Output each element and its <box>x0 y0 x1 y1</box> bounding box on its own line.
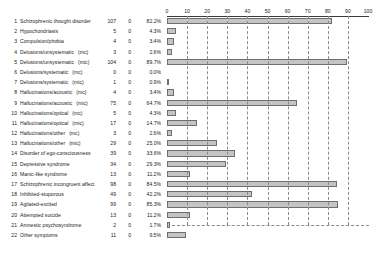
bar <box>167 191 252 197</box>
symptom-label: Amnestic psychosyndrome <box>20 220 81 230</box>
table-row: 7Delusions/systematic(mic)100.9% <box>0 77 166 87</box>
row-index: 20 <box>6 210 17 220</box>
symptom-label: Agitated-excited <box>20 199 57 209</box>
symptom-label: Hallucinations/optical(mc) <box>20 108 83 118</box>
bar-row <box>167 230 368 240</box>
x-tick-label-50: 50 <box>265 8 271 14</box>
bar <box>167 161 226 167</box>
symptom-label-text: Delusions/systematic <box>20 79 68 85</box>
count-value: 3 <box>100 47 116 57</box>
missing-value: 0 <box>122 36 131 46</box>
count-value: 75 <box>100 98 116 108</box>
symptom-table: 1Schizophrenic thought disorder107082.2%… <box>0 16 166 240</box>
percent-value: 14.7% <box>136 118 161 128</box>
missing-value: 0 <box>122 67 131 77</box>
percent-value: 4.3% <box>136 26 161 36</box>
symptom-label: Inhibited-stuporous <box>20 189 64 199</box>
symptom-label: Disorder of ego-consciousness <box>20 148 91 158</box>
bar <box>167 59 347 65</box>
symptom-label: Hallucinations/other(mic) <box>20 138 81 148</box>
bar <box>167 110 176 116</box>
bar <box>167 222 170 228</box>
table-row: 21Amnestic psychosyndrome201.7% <box>0 220 166 230</box>
row-index: 16 <box>6 169 17 179</box>
count-value: 5 <box>100 108 116 118</box>
percent-value: 9.5% <box>136 230 161 240</box>
bar <box>167 38 174 44</box>
x-tick-label-0: 0 <box>166 8 169 14</box>
percent-value: 3.4% <box>136 87 161 97</box>
symptom-label-text: Hallucinations/acoustic <box>20 89 72 95</box>
row-index: 8 <box>6 87 17 97</box>
row-index: 19 <box>6 199 17 209</box>
gridline-10 <box>187 16 188 225</box>
symptom-label: Schizophrenic incongruent affect <box>20 179 94 189</box>
symptom-label: Schizophrenic thought disorder <box>20 16 91 26</box>
x-tick-label-40: 40 <box>245 8 251 14</box>
count-value: 13 <box>100 210 116 220</box>
symptom-label-text: Delusions/systematic <box>20 69 68 75</box>
gridline-20 <box>207 16 208 225</box>
bar <box>167 28 176 34</box>
symptom-label-text: Hallucinations/other <box>20 140 65 146</box>
percent-value: 11.2% <box>136 210 161 220</box>
symptom-label: Delusions/unsystematic(mc) <box>20 47 88 57</box>
gridline-40 <box>247 16 248 225</box>
missing-value: 0 <box>122 138 131 148</box>
symptom-label-text: Delusions/unsystematic <box>20 49 74 55</box>
count-value: 49 <box>100 189 116 199</box>
bar <box>167 49 172 55</box>
missing-value: 0 <box>122 26 131 36</box>
table-row: 1Schizophrenic thought disorder107082.2% <box>0 16 166 26</box>
table-row: 10Hallucinations/optical(mc)504.3% <box>0 108 166 118</box>
symptom-label-suffix: (mc) <box>68 69 82 75</box>
missing-value: 0 <box>122 169 131 179</box>
symptom-label: Hallucinations/other(mc) <box>20 128 79 138</box>
percent-value: 82.2% <box>136 16 161 26</box>
missing-value: 0 <box>122 16 131 26</box>
gridline-80 <box>328 16 329 225</box>
symptom-frequency-chart: 0102030405060708090100 1Schizophrenic th… <box>0 0 380 255</box>
bar <box>167 201 338 207</box>
symptom-label: Manic-like syndrome <box>20 169 67 179</box>
missing-value: 0 <box>122 57 131 67</box>
symptom-label: Other symptoms <box>20 230 58 240</box>
table-row: 20Attempted suicide13011.2% <box>0 210 166 220</box>
missing-value: 0 <box>122 189 131 199</box>
symptom-label-text: Hallucinations/other <box>20 130 65 136</box>
missing-value: 0 <box>122 159 131 169</box>
missing-value: 0 <box>122 210 131 220</box>
gridline-70 <box>308 16 309 225</box>
symptom-label: Delusions/systematic(mc) <box>20 67 83 77</box>
symptom-label-text: Agitated-excited <box>20 201 57 207</box>
row-index: 11 <box>6 118 17 128</box>
symptom-label-text: Amnestic psychosyndrome <box>20 222 81 228</box>
symptom-label-text: Schizophrenic thought disorder <box>20 18 91 24</box>
gridline-90 <box>348 16 349 225</box>
count-value: 99 <box>100 199 116 209</box>
row-index: 6 <box>6 67 17 77</box>
row-index: 15 <box>6 159 17 169</box>
percent-value: 85.3% <box>136 199 161 209</box>
symptom-label: Hypochondriasis <box>20 26 58 36</box>
table-row: 9Hallucinations/acoustic(mic)75064.7% <box>0 98 166 108</box>
count-value: 4 <box>100 87 116 97</box>
percent-value: 84.5% <box>136 179 161 189</box>
count-value: 4 <box>100 36 116 46</box>
symptom-label: Hallucinations/acoustic(mc) <box>20 87 87 97</box>
missing-value: 0 <box>122 179 131 189</box>
bar <box>167 140 217 146</box>
row-index: 9 <box>6 98 17 108</box>
symptom-label-text: Hallucinations/optical <box>20 110 68 116</box>
row-index: 17 <box>6 179 17 189</box>
symptom-label-text: Hypochondriasis <box>20 28 58 34</box>
count-value: 5 <box>100 26 116 36</box>
table-row: 22Other symptoms1109.5% <box>0 230 166 240</box>
row-index: 13 <box>6 138 17 148</box>
x-tick-label-90: 90 <box>345 8 351 14</box>
gridline-30 <box>227 16 228 225</box>
symptom-label-suffix: (mic) <box>68 120 83 126</box>
symptom-label: Hallucinations/optical(mic) <box>20 118 84 128</box>
missing-value: 0 <box>122 230 131 240</box>
percent-value: 0.9% <box>136 77 161 87</box>
